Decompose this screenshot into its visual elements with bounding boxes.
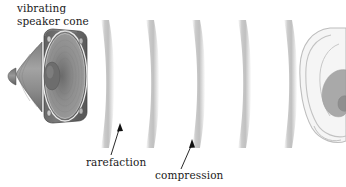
annotation-arrows-layer — [0, 0, 346, 187]
label-rarefaction: rarefaction — [86, 156, 146, 169]
rarefaction-arrow — [111, 123, 123, 155]
label-speaker-line-1: vibrating — [17, 2, 89, 15]
compression-arrow — [181, 139, 195, 169]
label-compression: compression — [155, 169, 223, 182]
label-speaker-line-2: speaker cone — [17, 15, 89, 28]
label-vibrating-speaker-cone: vibrating speaker cone — [17, 2, 89, 28]
sound-wave-figure: vibrating speaker cone rarefaction compr… — [0, 0, 346, 187]
